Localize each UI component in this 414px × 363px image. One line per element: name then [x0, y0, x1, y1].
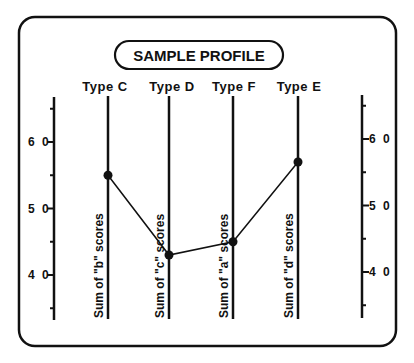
data-point [229, 237, 238, 246]
data-point [104, 171, 113, 180]
chart-title: SAMPLE PROFILE [115, 41, 283, 69]
type-label: Type F [212, 79, 256, 94]
type-label: Type C [82, 79, 127, 94]
type-column: Type ESum of "d" scores [277, 79, 322, 319]
type-label: Type D [149, 79, 194, 94]
left-tick-label: 4 0 [28, 268, 51, 282]
type-columns: Type CSum of "b" scoresType DSum of "c" … [82, 79, 321, 319]
profile-line [108, 162, 298, 255]
data-point [165, 251, 174, 260]
column-axis-label: Sum of "a" scores [217, 214, 231, 318]
right-tick-label: 4 0 [369, 265, 392, 279]
title-text: SAMPLE PROFILE [133, 47, 265, 64]
type-label: Type E [277, 79, 322, 94]
left-tick-label: 5 0 [28, 202, 51, 216]
left-scale-axis: 6 05 04 0 [28, 97, 54, 320]
profile-chart: SAMPLE PROFILE 6 05 04 0 6 05 04 0 Type … [0, 0, 414, 363]
column-axis-label: Sum of "c" scores [153, 214, 167, 318]
right-scale-axis: 6 05 04 0 [362, 95, 392, 318]
type-column: Type FSum of "a" scores [212, 79, 256, 319]
right-tick-label: 6 0 [369, 132, 392, 146]
type-column: Type DSum of "c" scores [149, 79, 194, 319]
chart-frame [19, 17, 396, 346]
column-axis-label: Sum of "b" scores [92, 213, 106, 318]
data-point [294, 157, 303, 166]
left-tick-label: 6 0 [28, 135, 51, 149]
column-axis-label: Sum of "d" scores [282, 213, 296, 318]
type-column: Type CSum of "b" scores [82, 79, 127, 319]
right-tick-label: 5 0 [369, 199, 392, 213]
